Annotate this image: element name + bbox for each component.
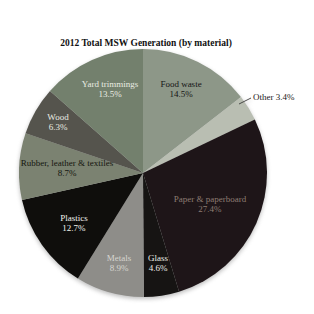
pie-chart <box>0 0 314 314</box>
chart-canvas: 2012 Total MSW Generation (by material) … <box>0 0 314 314</box>
